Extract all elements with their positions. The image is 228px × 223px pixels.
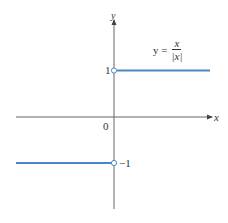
y-tick-label-1: 1	[105, 65, 111, 76]
function-equation: y = x |x|	[153, 37, 182, 63]
x-axis-label: x	[214, 112, 219, 123]
equation-fraction: x |x|	[171, 37, 182, 63]
y-axis-label: y	[111, 11, 115, 21]
y-tick-label-neg1: −1	[119, 158, 131, 169]
origin-label: 0	[103, 121, 109, 132]
equation-lhs: y =	[153, 44, 167, 56]
open-circle-top	[111, 68, 116, 73]
equation-denominator: |x|	[171, 50, 182, 63]
equation-numerator: x	[172, 37, 181, 50]
open-circle-bottom	[111, 160, 116, 165]
signum-graph	[0, 0, 228, 223]
